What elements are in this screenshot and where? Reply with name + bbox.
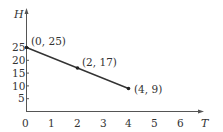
y-axis-label: H	[14, 9, 24, 20]
x-tick-label: 0	[22, 118, 29, 129]
point-label-0-25: (0, 25)	[31, 36, 66, 47]
y-tick-label: 15	[12, 68, 25, 79]
x-tick-label: 4	[125, 118, 132, 129]
x-tick-label: 5	[151, 118, 158, 129]
point-2-17	[76, 66, 80, 70]
y-tick-label: 10	[12, 81, 25, 92]
x-tick-label: 6	[177, 118, 184, 129]
x-tick-label: 2	[74, 118, 81, 129]
y-axis-arrow-icon	[25, 8, 29, 14]
x-axis-label: T	[201, 118, 208, 129]
point-label-4-9: (4, 9)	[134, 84, 162, 95]
point-label-2-17: (2, 17)	[82, 57, 117, 68]
y-tick-label: 5	[18, 93, 25, 104]
x-axis-arrow-icon	[198, 110, 204, 114]
x-tick-label: 3	[100, 118, 107, 129]
y-tick-label: 20	[12, 55, 25, 66]
point-4-9	[127, 87, 131, 91]
y-tick-label: 25	[12, 42, 25, 53]
x-tick-label: 1	[48, 118, 55, 129]
